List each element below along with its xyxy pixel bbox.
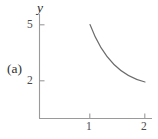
y-tick-label-5: 5 [27,19,33,31]
panel-label: (a) [7,62,22,76]
x-tick-label-1: 1 [86,121,92,133]
x-tick-label-2: 2 [141,121,147,133]
figure-panel-a: (a) y 5 2 1 2 [0,0,158,139]
plot-area [0,0,158,139]
y-axis-label: y [37,1,43,15]
y-tick-label-2: 2 [27,75,33,87]
data-curve [90,25,145,83]
